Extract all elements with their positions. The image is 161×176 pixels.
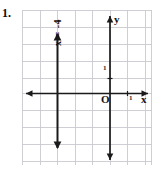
problem-number: 1. — [2, 7, 11, 19]
line-equation-label: x = -4 — [52, 10, 64, 46]
y-axis-label: y — [114, 14, 120, 25]
y-axis — [107, 16, 114, 160]
x-axis-label: x — [141, 94, 147, 105]
plotted-line-x-equals-neg4 — [54, 33, 62, 149]
origin-label: O — [101, 94, 110, 105]
x-unit-tick-label: 1 — [129, 95, 133, 102]
coordinate-graph: y x O 1 1 x = -4 — [22, 10, 152, 165]
figure-container: 1. — [0, 0, 161, 176]
axes-and-plot — [22, 10, 152, 165]
y-unit-tick-label: 1 — [103, 65, 107, 72]
